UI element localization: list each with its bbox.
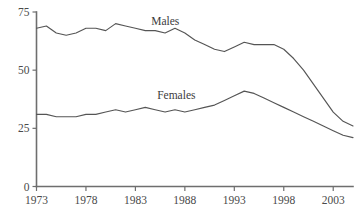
chart-canvas: 0255075 1973197819831988199319982003 Mal…: [0, 0, 357, 222]
x-tick-label: 1973: [25, 194, 48, 206]
line-chart: 0255075 1973197819831988199319982003 Mal…: [0, 0, 357, 222]
data-series-group: [37, 24, 354, 138]
x-tick-label: 1988: [173, 194, 196, 206]
y-tick-label: 0: [24, 181, 30, 193]
y-tick-label: 75: [18, 6, 30, 18]
series-labels-group: MalesFemales: [151, 15, 196, 101]
x-tick-label: 1978: [74, 194, 97, 206]
x-tick-label: 2003: [322, 194, 345, 206]
x-tick-label: 1993: [223, 194, 246, 206]
x-tick-label: 1998: [272, 194, 295, 206]
series-label-females: Females: [157, 89, 196, 101]
x-axis-ticks: 1973197819831988199319982003: [25, 187, 345, 206]
y-tick-label: 50: [18, 64, 30, 76]
series-label-males: Males: [151, 15, 180, 27]
y-tick-label: 25: [18, 122, 30, 134]
series-line-males: [37, 24, 354, 126]
y-axis-ticks: 0255075: [18, 6, 37, 193]
x-tick-label: 1983: [124, 194, 147, 206]
